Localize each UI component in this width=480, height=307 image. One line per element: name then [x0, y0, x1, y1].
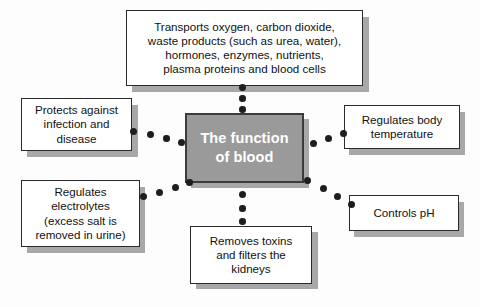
connector-right-lower-dot-3 [334, 193, 341, 200]
ph-box-label: Controls pH [369, 206, 438, 220]
connector-right-upper-dot-3 [340, 130, 347, 137]
protects-box-label: Protects against infection and disease [31, 103, 122, 145]
connector-left-lower-dot-2 [156, 189, 163, 196]
connector-top-dot-1 [239, 84, 246, 91]
transports-box-label: Transports oxygen, carbon dioxide, waste… [144, 20, 345, 77]
electrolytes-box[interactable]: Regulates electrolytes (excess salt is r… [21, 180, 140, 247]
connector-left-upper-dot-4 [178, 139, 185, 146]
toxins-box[interactable]: Removes toxins and filters the kidneys [190, 226, 312, 284]
transports-box[interactable]: Transports oxygen, carbon dioxide, waste… [126, 10, 363, 86]
blood-function-diagram: Transports oxygen, carbon dioxide, waste… [0, 0, 480, 307]
temperature-box[interactable]: Regulates body temperature [344, 105, 460, 149]
center-node-label: The function of blood [196, 129, 292, 166]
connector-bottom-dot-1 [239, 191, 246, 198]
connector-left-upper-dot-2 [147, 131, 154, 138]
connector-top-dot-2 [239, 95, 246, 102]
connector-top-dot-3 [239, 106, 246, 113]
connector-right-upper-dot-1 [310, 140, 317, 147]
connector-right-upper-dot-2 [325, 135, 332, 142]
ph-box[interactable]: Controls pH [349, 195, 459, 231]
connector-right-lower-dot-4 [348, 201, 355, 208]
connector-left-lower-dot-3 [172, 184, 179, 191]
connector-left-upper-dot-3 [163, 135, 170, 142]
connector-right-lower-dot-1 [304, 177, 311, 184]
connector-right-lower-dot-2 [320, 185, 327, 192]
temperature-box-label: Regulates body temperature [358, 113, 447, 141]
electrolytes-box-label: Regulates electrolytes (excess salt is r… [31, 185, 129, 242]
protects-box[interactable]: Protects against infection and disease [21, 98, 132, 151]
toxins-box-label: Removes toxins and filters the kidneys [206, 234, 296, 276]
connector-left-lower-dot-4 [186, 179, 193, 186]
connector-bottom-dot-3 [239, 218, 246, 225]
connector-left-lower-dot-1 [140, 193, 147, 200]
center-node[interactable]: The function of blood [185, 113, 304, 183]
connector-left-upper-dot-1 [130, 128, 137, 135]
connector-bottom-dot-2 [239, 205, 246, 212]
